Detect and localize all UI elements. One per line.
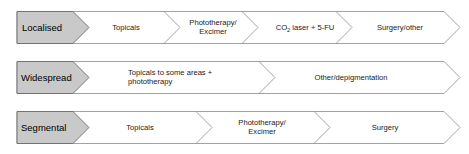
row-localised-step-topicals[interactable]: Topicals xyxy=(112,23,140,32)
row-localised-step-surgery-other[interactable]: Surgery/other xyxy=(377,23,423,32)
row-segmental-step-topicals[interactable]: Topicals xyxy=(126,123,154,132)
co2-prefix: CO xyxy=(276,23,287,32)
flow-chart-canvas: Localised Topicals Phototherapy/ Excimer… xyxy=(0,0,469,154)
row-segmental-step-phototherapy-line1[interactable]: Phototherapy/ xyxy=(238,118,286,127)
co2-suffix: laser + 5-FU xyxy=(290,23,334,32)
row-localised: Localised Topicals Phototherapy/ Excimer… xyxy=(17,12,460,44)
row-segmental-step-surgery[interactable]: Surgery xyxy=(372,123,399,132)
row-localised-step-phototherapy-line1[interactable]: Phototherapy/ xyxy=(189,18,237,27)
row-widespread-step-topicals-line2[interactable]: phototherapy xyxy=(128,77,173,86)
row-widespread-step-topicals-line1[interactable]: Topicals to some areas + xyxy=(128,68,213,77)
row-widespread-label: Widespread xyxy=(21,72,72,83)
row-localised-step-co2-laser[interactable]: CO2 laser + 5-FU xyxy=(276,23,335,33)
row-localised-step-phototherapy-line2[interactable]: Excimer xyxy=(199,27,227,36)
row-widespread: Widespread Topicals to some areas + phot… xyxy=(17,62,460,94)
row-widespread-step-other-depigmentation[interactable]: Other/depigmentation xyxy=(314,73,387,82)
row-segmental-step-phototherapy-line2[interactable]: Excimer xyxy=(248,127,276,136)
row-localised-label: Localised xyxy=(22,22,62,33)
row-segmental-label: Segmental xyxy=(21,122,66,133)
treatment-pathway-diagram: Localised Topicals Phototherapy/ Excimer… xyxy=(0,0,469,154)
row-segmental: Segmental Topicals Phototherapy/ Excimer… xyxy=(17,112,460,144)
